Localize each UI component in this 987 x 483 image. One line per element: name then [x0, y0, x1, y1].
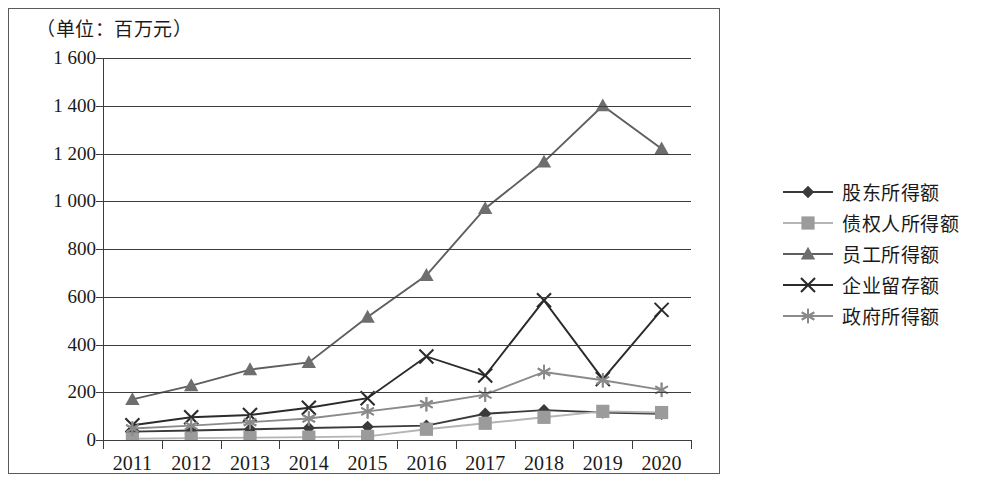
legend-item-1[interactable]: 股东所得额: [782, 176, 982, 207]
data-point-triangle: [478, 201, 492, 214]
data-point-square: [479, 417, 492, 430]
data-point-triangle: [302, 355, 316, 368]
x-tick-label: 2019: [583, 452, 623, 475]
data-point-triangle: [360, 310, 374, 323]
data-point-x: [537, 293, 551, 307]
x-tick-mark: [515, 440, 516, 449]
y-tick-label: 400: [68, 334, 97, 356]
data-point-triangle: [654, 142, 668, 155]
gridline: [103, 345, 691, 346]
y-axis-labels: 1 6001 4001 2001 0008006004002000: [0, 0, 96, 483]
legend-key-x-icon: [782, 274, 834, 296]
gridline: [103, 297, 691, 298]
legend-label: 股东所得额: [842, 178, 940, 205]
x-tick-mark: [279, 440, 280, 449]
legend-key-square-icon: [782, 212, 834, 234]
x-tick-label: 2020: [642, 452, 682, 475]
x-tick-label: 2012: [171, 452, 211, 475]
y-tick-label: 1 000: [53, 190, 96, 212]
gridline: [103, 201, 691, 202]
y-tick-label: 800: [68, 238, 97, 260]
legend-item-5[interactable]: 政府所得额: [782, 300, 982, 331]
x-tick-mark: [162, 440, 163, 449]
x-tick-label: 2013: [230, 452, 270, 475]
data-point-square: [302, 431, 315, 440]
chart-container: （单位：百万元） 1 6001 4001 2001 00080060040020…: [0, 0, 987, 483]
data-point-square: [361, 430, 374, 440]
chart-legend: 股东所得额债权人所得额员工所得额企业留存额政府所得额: [782, 176, 982, 331]
data-point-square: [537, 411, 550, 424]
data-point-x: [419, 349, 433, 363]
gridline: [103, 58, 691, 59]
x-tick-label: 2016: [406, 452, 446, 475]
x-tick-mark: [632, 440, 633, 449]
data-point-x: [655, 303, 669, 317]
y-tick-label: 600: [68, 286, 97, 308]
series-5: [126, 365, 668, 436]
y-tick-label: 0: [87, 429, 97, 451]
legend-item-3[interactable]: 员工所得额: [782, 238, 982, 269]
legend-label: 政府所得额: [842, 302, 940, 329]
data-point-square: [801, 216, 814, 229]
y-tick-label: 1 600: [53, 47, 96, 69]
x-tick-mark: [456, 440, 457, 449]
gridline: [103, 392, 691, 393]
data-point-square: [655, 406, 668, 419]
x-tick-label: 2018: [524, 452, 564, 475]
x-tick-mark: [338, 440, 339, 449]
y-tick-label: 200: [68, 381, 97, 403]
legend-label: 员工所得额: [842, 240, 940, 267]
gridline: [103, 154, 691, 155]
legend-label: 债权人所得额: [842, 209, 959, 236]
legend-item-4[interactable]: 企业留存额: [782, 269, 982, 300]
data-point-x: [478, 369, 492, 383]
legend-label: 企业留存额: [842, 271, 940, 298]
y-tick-label: 1 400: [53, 95, 96, 117]
x-tick-mark: [397, 440, 398, 449]
legend-item-2[interactable]: 债权人所得额: [782, 207, 982, 238]
legend-key-diamond-icon: [782, 181, 834, 203]
series-line: [132, 300, 661, 425]
legend-key-triangle-icon: [782, 243, 834, 265]
x-tick-mark: [103, 440, 104, 449]
data-point-square: [243, 431, 256, 440]
x-tick-mark: [573, 440, 574, 449]
data-point-square: [420, 423, 433, 436]
series-2: [126, 405, 668, 440]
gridline: [103, 249, 691, 250]
x-tick-label: 2011: [113, 452, 152, 475]
plot-area: [103, 58, 691, 440]
data-point-diamond: [802, 185, 814, 197]
data-point-square: [596, 405, 609, 418]
x-tick-label: 2014: [289, 452, 329, 475]
x-tick-mark: [691, 440, 692, 449]
gridline: [103, 106, 691, 107]
x-tick-mark: [221, 440, 222, 449]
y-tick-label: 1 200: [53, 143, 96, 165]
x-tick-label: 2017: [465, 452, 505, 475]
series-line: [132, 106, 661, 400]
legend-key-asterisk-icon: [782, 305, 834, 327]
x-tick-label: 2015: [348, 452, 388, 475]
